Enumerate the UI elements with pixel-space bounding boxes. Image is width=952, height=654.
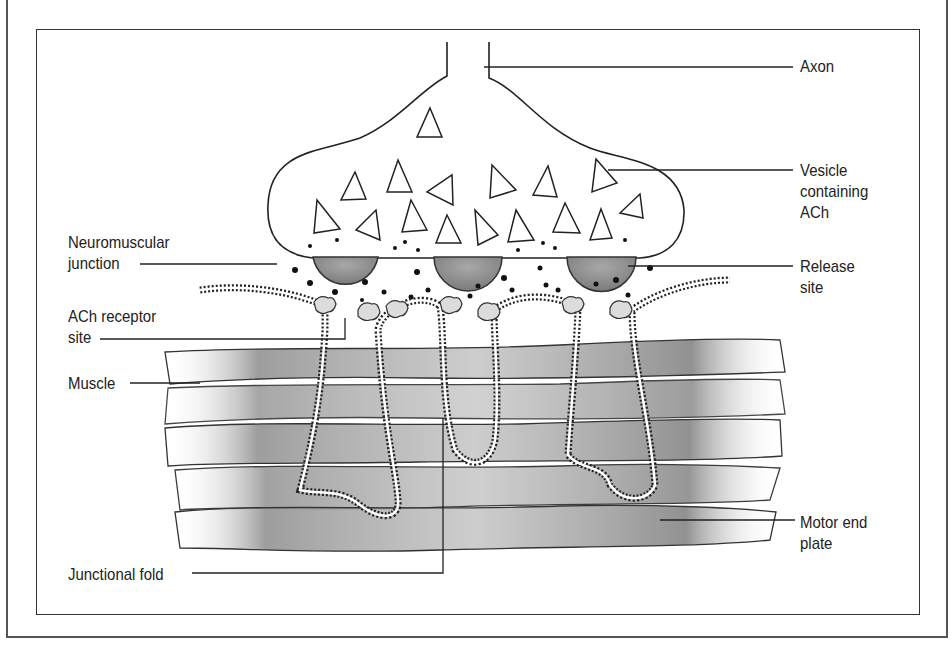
label-motor-end-plate: Motor end plate [800, 512, 867, 554]
label-ach-receptor-site: ACh receptor site [68, 306, 156, 348]
label-neuromuscular-junction: Neuromuscular junction [68, 232, 169, 274]
label-release-site: Release site [800, 256, 855, 298]
label-junctional-fold: Junctional fold [68, 564, 164, 585]
vesicles-containing-ach [314, 108, 643, 245]
label-vesicle-containing-ach: Vesicle containing ACh [800, 160, 868, 223]
label-axon: Axon [800, 56, 834, 77]
release-sites [313, 257, 636, 292]
label-muscle: Muscle [68, 373, 115, 394]
